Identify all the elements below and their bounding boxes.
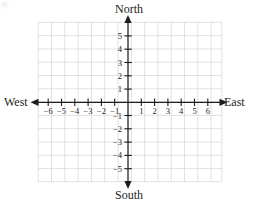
- x-tick-label: 3: [166, 106, 170, 116]
- arrow-west-icon: [31, 99, 39, 106]
- coordinate-grid-figure: −6 −5 −4 −3 −2 −1 1 2 3 4 5 6 5 4 3 2 1 …: [0, 0, 258, 207]
- compass-label-south: South: [0, 189, 258, 201]
- x-tick-label: 6: [206, 106, 210, 116]
- x-tick-label: 5: [192, 106, 196, 116]
- y-tick-label: −5: [113, 164, 122, 174]
- y-tick-label: 2: [118, 71, 122, 81]
- y-tick-label: −1: [113, 111, 122, 121]
- compass-label-east: East: [224, 96, 245, 108]
- x-tick-label: 1: [139, 106, 143, 116]
- x-tick-label: −3: [84, 106, 93, 116]
- coordinate-plane: −6 −5 −4 −3 −2 −1 1 2 3 4 5 6 5 4 3 2 1 …: [0, 0, 258, 207]
- compass-label-north: North: [0, 3, 258, 15]
- y-tick-label: −4: [113, 150, 123, 160]
- arrow-north-icon: [124, 15, 131, 23]
- y-tick-label: 3: [118, 58, 122, 68]
- x-tick-label: −2: [97, 106, 106, 116]
- y-tick-label: 1: [118, 84, 122, 94]
- x-tick-label: −5: [57, 106, 66, 116]
- compass-label-west: West: [4, 96, 28, 108]
- x-tick-label: 4: [179, 106, 184, 116]
- y-tick-label: −3: [113, 137, 122, 147]
- x-tick-label: 2: [152, 106, 156, 116]
- x-tick-label: −4: [70, 106, 80, 116]
- y-tick-label: −2: [113, 124, 122, 134]
- x-tick-label: −6: [44, 106, 53, 116]
- y-tick-label: 5: [118, 31, 122, 41]
